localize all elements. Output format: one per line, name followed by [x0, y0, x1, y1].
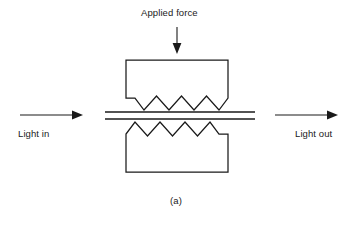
lower-deformer-plate: [126, 122, 228, 172]
upper-deformer-plate: [126, 60, 228, 110]
diagram-canvas: [0, 0, 358, 227]
light-in-label: Light in: [18, 128, 49, 139]
light-in-arrow-head: [72, 111, 83, 120]
applied-force-arrow-head: [173, 43, 182, 54]
light-in-arrow: [20, 111, 83, 120]
applied-force-label: Applied force: [141, 7, 198, 18]
light-out-label: Light out: [295, 128, 332, 139]
optical-fiber: [105, 112, 255, 119]
light-out-arrow-head: [327, 111, 338, 120]
applied-force-arrow: [173, 27, 182, 54]
figure-microbend-sensor: Applied force Light in Light out (a): [0, 0, 358, 227]
light-out-arrow: [275, 111, 338, 120]
figure-caption: (a): [170, 195, 182, 206]
